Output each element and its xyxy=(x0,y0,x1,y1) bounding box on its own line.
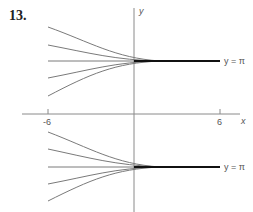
upper-asymptote-label: y = π xyxy=(224,56,245,66)
direction-field-plot: y x -6 6 y = π y = π xyxy=(0,0,253,212)
x-tick-label-6: 6 xyxy=(217,117,222,127)
y-axis-label: y xyxy=(138,6,144,16)
x-tick-label-neg6: -6 xyxy=(43,117,51,127)
lower-asymptote-label: y = π xyxy=(224,162,245,172)
x-axis-label: x xyxy=(240,116,246,126)
